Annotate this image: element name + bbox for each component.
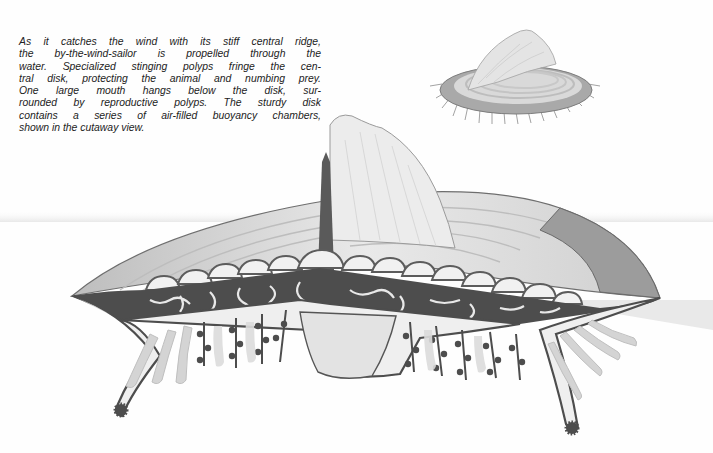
caption-line: tral disk, protecting the animal and num…	[19, 73, 321, 85]
velella-cutaway-illustration	[0, 100, 713, 453]
caption-line: One large mouth hangs below the disk, su…	[19, 85, 321, 97]
clipped-footer-text	[10, 444, 280, 453]
stinging-tip-icon	[115, 404, 127, 416]
document-page: As it catches the wind with its stiff ce…	[0, 0, 713, 453]
caption-line: the by-the-wind-sailor is propelled thro…	[19, 48, 321, 60]
sail	[330, 115, 455, 248]
stinging-tip-icon	[566, 422, 578, 434]
caption-line: As it catches the wind with its stiff ce…	[19, 36, 321, 48]
caption-line: water. Specialized stinging polyps fring…	[19, 61, 321, 73]
